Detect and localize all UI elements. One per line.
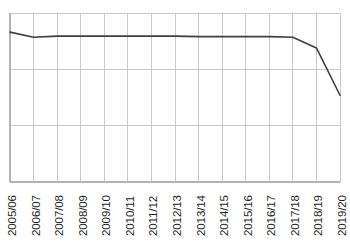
x-tick-label: 2012/13 (171, 195, 183, 236)
x-tick-label: 2014/15 (218, 195, 230, 236)
x-tick-label: 2015/16 (242, 195, 254, 236)
x-tick-label: 2018/19 (312, 195, 324, 236)
x-tick-label: 2010/11 (124, 196, 136, 236)
x-tick-label: 2016/17 (265, 195, 277, 236)
line-chart: 2005/062006/072007/082008/092009/102010/… (0, 0, 350, 241)
x-tick-label: 2019/20 (336, 195, 348, 236)
x-tick-label: 2017/18 (289, 195, 301, 236)
x-tick-label: 2005/06 (6, 195, 18, 236)
x-tick-label: 2009/10 (100, 195, 112, 236)
x-tick-label: 2011/12 (147, 196, 159, 236)
x-tick-label: 2007/08 (53, 195, 65, 236)
x-tick-label: 2013/14 (195, 195, 207, 236)
vertical-gridlines (10, 13, 340, 182)
x-tick-label: 2008/09 (77, 195, 89, 236)
x-tick-label: 2006/07 (30, 195, 42, 236)
